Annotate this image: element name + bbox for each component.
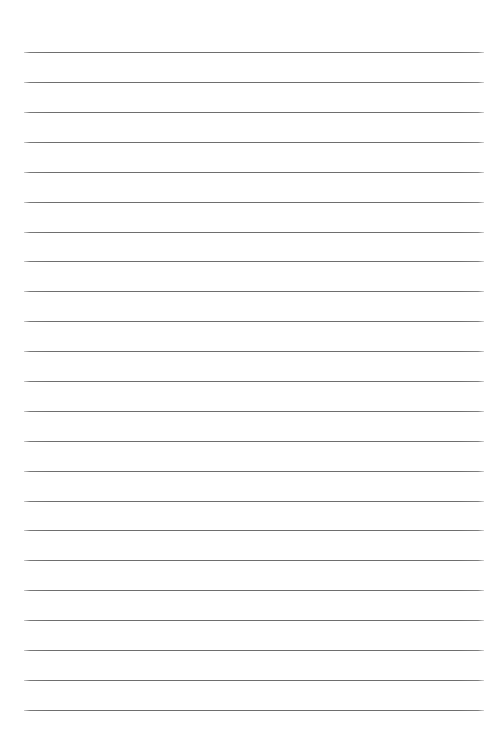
ruled-line: [24, 560, 484, 561]
ruled-line: [24, 351, 484, 352]
ruled-line: [24, 680, 484, 681]
ruled-line: [24, 381, 484, 382]
ruled-line: [24, 261, 484, 262]
ruled-line: [24, 590, 484, 591]
ruled-line: [24, 530, 484, 531]
ruled-line: [24, 82, 484, 83]
ruled-line: [24, 172, 484, 173]
ruled-line: [24, 471, 484, 472]
ruled-line: [24, 142, 484, 143]
ruled-line: [24, 411, 484, 412]
ruled-line: [24, 501, 484, 502]
ruled-line: [24, 321, 484, 322]
ruled-line: [24, 650, 484, 651]
ruled-line: [24, 441, 484, 442]
ruled-line-area: [0, 0, 504, 755]
ruled-line: [24, 52, 484, 53]
ruled-line: [24, 112, 484, 113]
ruled-line: [24, 202, 484, 203]
ruled-line: [24, 620, 484, 621]
ruled-line: [24, 291, 484, 292]
notepaper-page: [0, 0, 504, 755]
ruled-line: [24, 710, 484, 711]
ruled-line: [24, 232, 484, 233]
